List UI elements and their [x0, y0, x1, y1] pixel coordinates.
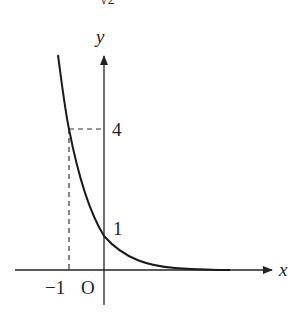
y-tick-label-1: 1: [113, 218, 123, 239]
x-axis-label: x: [278, 259, 288, 280]
x-tick-label-neg1: −1: [45, 277, 65, 298]
top-fragment-text: √2: [100, 0, 115, 7]
exponential-curve: [58, 55, 230, 270]
y-tick-label-4: 4: [112, 119, 122, 140]
origin-label: O: [81, 277, 95, 298]
exponential-graph: √2 y x 4 1 −1 O: [0, 0, 302, 313]
y-axis-label: y: [94, 26, 105, 47]
